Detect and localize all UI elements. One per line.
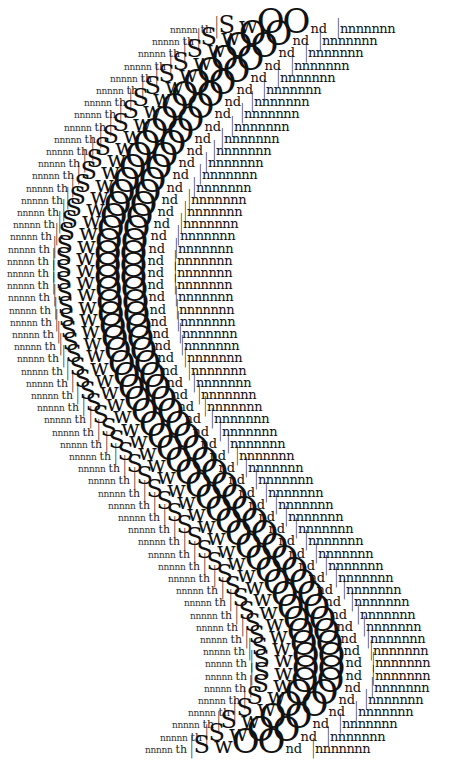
s-glyph: S [193,733,209,757]
lead-text: nnnnn [145,746,172,755]
tail-text: nnnnnnn [315,742,370,755]
th-text: th [175,744,187,755]
nd-text: nd [285,742,302,755]
bar-glyph-2: | [312,736,315,756]
w-glyph: w [214,735,233,757]
text-row: nnnnnth|SwOOnd|nnnnnnn [145,724,370,758]
oo-glyphs: OO [232,724,284,758]
bar-glyph: | [190,735,193,757]
